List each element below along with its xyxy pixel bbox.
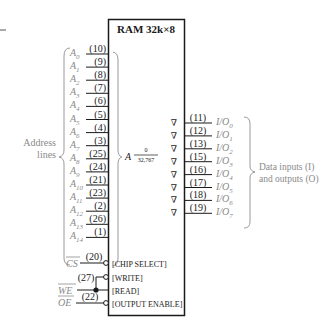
io-pin-label: I/O4 [215, 168, 233, 182]
address-pin-label: A1 [69, 60, 80, 74]
address-pin-label: A10 [69, 178, 84, 192]
address-pin-label: A0 [69, 47, 80, 61]
address-pin-label: A7 [69, 139, 80, 153]
write-function-label: [WRITE] [112, 274, 143, 283]
address-pin-label: A14 [69, 230, 84, 244]
address-pin-number: (7) [94, 82, 106, 94]
address-pin-number: (24) [89, 161, 106, 173]
write-pin-number: (27) [78, 272, 95, 284]
io-pin-label: I/O0 [215, 116, 233, 130]
address-pin-label: A4 [69, 99, 80, 113]
address-pin-label: A2 [69, 73, 80, 87]
address-pin-number: (3) [94, 135, 106, 147]
io-pin-label: I/O1 [215, 129, 233, 143]
address-pin-number: (9) [94, 56, 106, 68]
io-pin-number: (15) [190, 151, 207, 163]
tristate-icon: ∇ [171, 183, 177, 193]
we-signal-label: WE [58, 285, 72, 296]
ram-block-diagram: RAM 32k×8 A0(10)A1(9)A2(8)A3(7)A4(6)A5(5… [0, 0, 336, 335]
address-pins: A0(10)A1(9)A2(8)A3(7)A4(6)A5(5)A6(4)A7(3… [69, 43, 108, 244]
address-range-bottom: 32,767 [138, 157, 155, 163]
address-pin-label: A12 [69, 204, 84, 218]
io-pin-number: (16) [190, 164, 207, 176]
io-pin-label: I/O2 [215, 142, 233, 156]
io-pin-row: ∇(19)I/O7 [171, 202, 233, 220]
io-pin-number: (19) [190, 202, 207, 214]
io-pin-number: (17) [190, 177, 207, 189]
address-pin-label: A3 [69, 86, 80, 100]
cs-inversion-bubble [104, 261, 109, 266]
cs-signal-label: CS [66, 258, 78, 269]
cs-pin-number: (20) [86, 251, 103, 263]
chip-title: RAM 32k×8 [117, 23, 175, 35]
address-pin-number: (23) [89, 187, 106, 199]
tristate-icon: ∇ [171, 131, 177, 141]
tristate-icon: ∇ [171, 195, 177, 205]
io-brace [244, 117, 255, 228]
address-pin-number: (26) [89, 213, 106, 225]
tristate-icon: ∇ [171, 144, 177, 154]
io-pin-number: (12) [190, 125, 207, 137]
tristate-icon: ∇ [171, 157, 177, 167]
read-function-label: [READ] [112, 287, 139, 296]
io-pin-number: (18) [190, 189, 207, 201]
oe-function-label: [OUTPUT ENABLE] [112, 300, 183, 309]
chip-body [109, 20, 185, 316]
address-pin-number: (1) [94, 226, 106, 238]
address-range-top: 0 [145, 147, 148, 153]
address-pin-number: (8) [94, 69, 106, 81]
io-pin-number: (11) [190, 112, 206, 124]
io-pin-label: I/O5 [215, 181, 233, 195]
io-pin-label: I/O6 [215, 193, 233, 207]
address-pin-label: A6 [69, 126, 80, 140]
io-group-label-2: and outputs (O) [259, 174, 319, 185]
tristate-icon: ∇ [171, 208, 177, 218]
address-pin-label: A8 [69, 152, 80, 166]
tristate-icon: ∇ [171, 118, 177, 128]
address-pin-row: A14(1) [69, 226, 108, 244]
io-pin-number: (13) [190, 138, 207, 150]
write-inversion-bubble [104, 275, 109, 280]
oe-pin-number: (22) [82, 291, 99, 303]
oe-inversion-bubble [104, 301, 109, 306]
address-pin-label: A11 [69, 191, 83, 205]
address-brace-inner [113, 52, 122, 266]
address-pin-label: A9 [69, 165, 80, 179]
address-pin-number: (10) [89, 43, 106, 55]
address-brace-left [59, 48, 70, 265]
address-pin-number: (5) [94, 109, 106, 121]
address-symbol: A [124, 151, 132, 162]
io-pins: ∇(11)I/O0∇(12)I/O1∇(13)I/O2∇(15)I/O3∇(16… [171, 112, 233, 220]
address-pin-label: A13 [69, 217, 84, 231]
io-pin-label: I/O7 [215, 206, 233, 220]
address-pin-number: (25) [89, 148, 106, 160]
address-pin-number: (6) [94, 95, 106, 107]
oe-signal-label: OE [58, 297, 71, 308]
io-group-label-1: Data inputs (I) [259, 162, 314, 173]
address-pin-number: (4) [94, 122, 106, 134]
io-pin-label: I/O3 [215, 155, 233, 169]
cs-function-label: [CHIP SELECT] [112, 260, 167, 269]
address-pin-number: (2) [94, 200, 106, 212]
address-pin-label: A5 [69, 113, 80, 127]
address-pin-number: (21) [89, 174, 106, 186]
address-group-label-2: lines [37, 149, 56, 160]
tristate-icon: ∇ [171, 170, 177, 180]
address-group-label-1: Address [23, 137, 56, 148]
